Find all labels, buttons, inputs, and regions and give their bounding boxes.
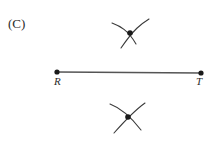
point-label-r: R <box>54 76 61 87</box>
lower-intersection-dot <box>125 114 131 120</box>
endpoint-dot-r <box>54 69 59 74</box>
geometry-figure: (C) R T <box>0 0 211 146</box>
segment-rt <box>57 72 201 73</box>
construction-drawing <box>0 0 211 146</box>
upper-intersection-dot <box>127 30 133 36</box>
part-label: (C) <box>8 17 25 30</box>
point-label-t: T <box>196 76 202 87</box>
